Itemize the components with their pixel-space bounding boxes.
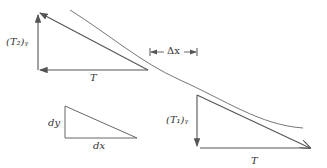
dy-label: dy bbox=[48, 117, 60, 128]
string-curve bbox=[70, 10, 303, 128]
t1y-label: (T₁)ᵧ bbox=[166, 114, 188, 125]
dx-label: dx bbox=[93, 140, 105, 151]
string-tension-diagram: (T₂)ᵧ T Δx dy dx (T₁)ᵧ T bbox=[0, 0, 327, 168]
slope-triangle bbox=[65, 106, 137, 138]
t2y-label: (T₂)ᵧ bbox=[6, 36, 28, 47]
t-bottom-label: T bbox=[251, 155, 258, 166]
t-top-label: T bbox=[90, 72, 97, 83]
t2-tension-vector bbox=[40, 13, 148, 70]
delta-x-label: Δx bbox=[167, 45, 180, 56]
t1-tension-vector bbox=[197, 95, 310, 148]
diagram-graphics bbox=[0, 0, 327, 168]
